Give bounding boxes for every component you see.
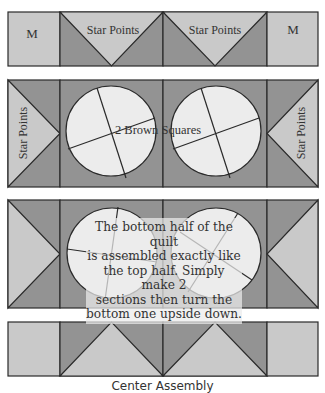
label-m-left: M bbox=[26, 26, 38, 41]
note-line: The bottom half of the quilt bbox=[86, 220, 242, 249]
label-star-points-1: Star Points bbox=[87, 23, 140, 37]
note-line: sections then turn the bbox=[86, 293, 242, 308]
row-1: M Star Points Star Points M bbox=[8, 12, 318, 66]
label-star-points-2: Star Points bbox=[189, 23, 242, 37]
assembly-note: The bottom half of the quilt is assemble… bbox=[86, 218, 242, 324]
corner-square-right-2 bbox=[267, 322, 318, 376]
label-brown-squares: 2 Brown Squares bbox=[115, 123, 201, 137]
row-2: Star Points Star Points 2 Brown Squares bbox=[8, 80, 318, 187]
row-4 bbox=[8, 322, 318, 376]
corner-square-right bbox=[267, 12, 318, 66]
figure-caption: Center Assembly bbox=[0, 379, 325, 393]
label-star-points-right: Star Points bbox=[294, 107, 308, 160]
label-m-right: M bbox=[287, 22, 299, 37]
note-line: the top half. Simply make 2 bbox=[86, 264, 242, 293]
note-line: is assembled exactly like bbox=[86, 249, 242, 264]
note-line: bottom one upside down. bbox=[86, 307, 242, 322]
corner-square-left-2 bbox=[8, 322, 60, 376]
label-star-points-left: Star Points bbox=[16, 107, 30, 160]
